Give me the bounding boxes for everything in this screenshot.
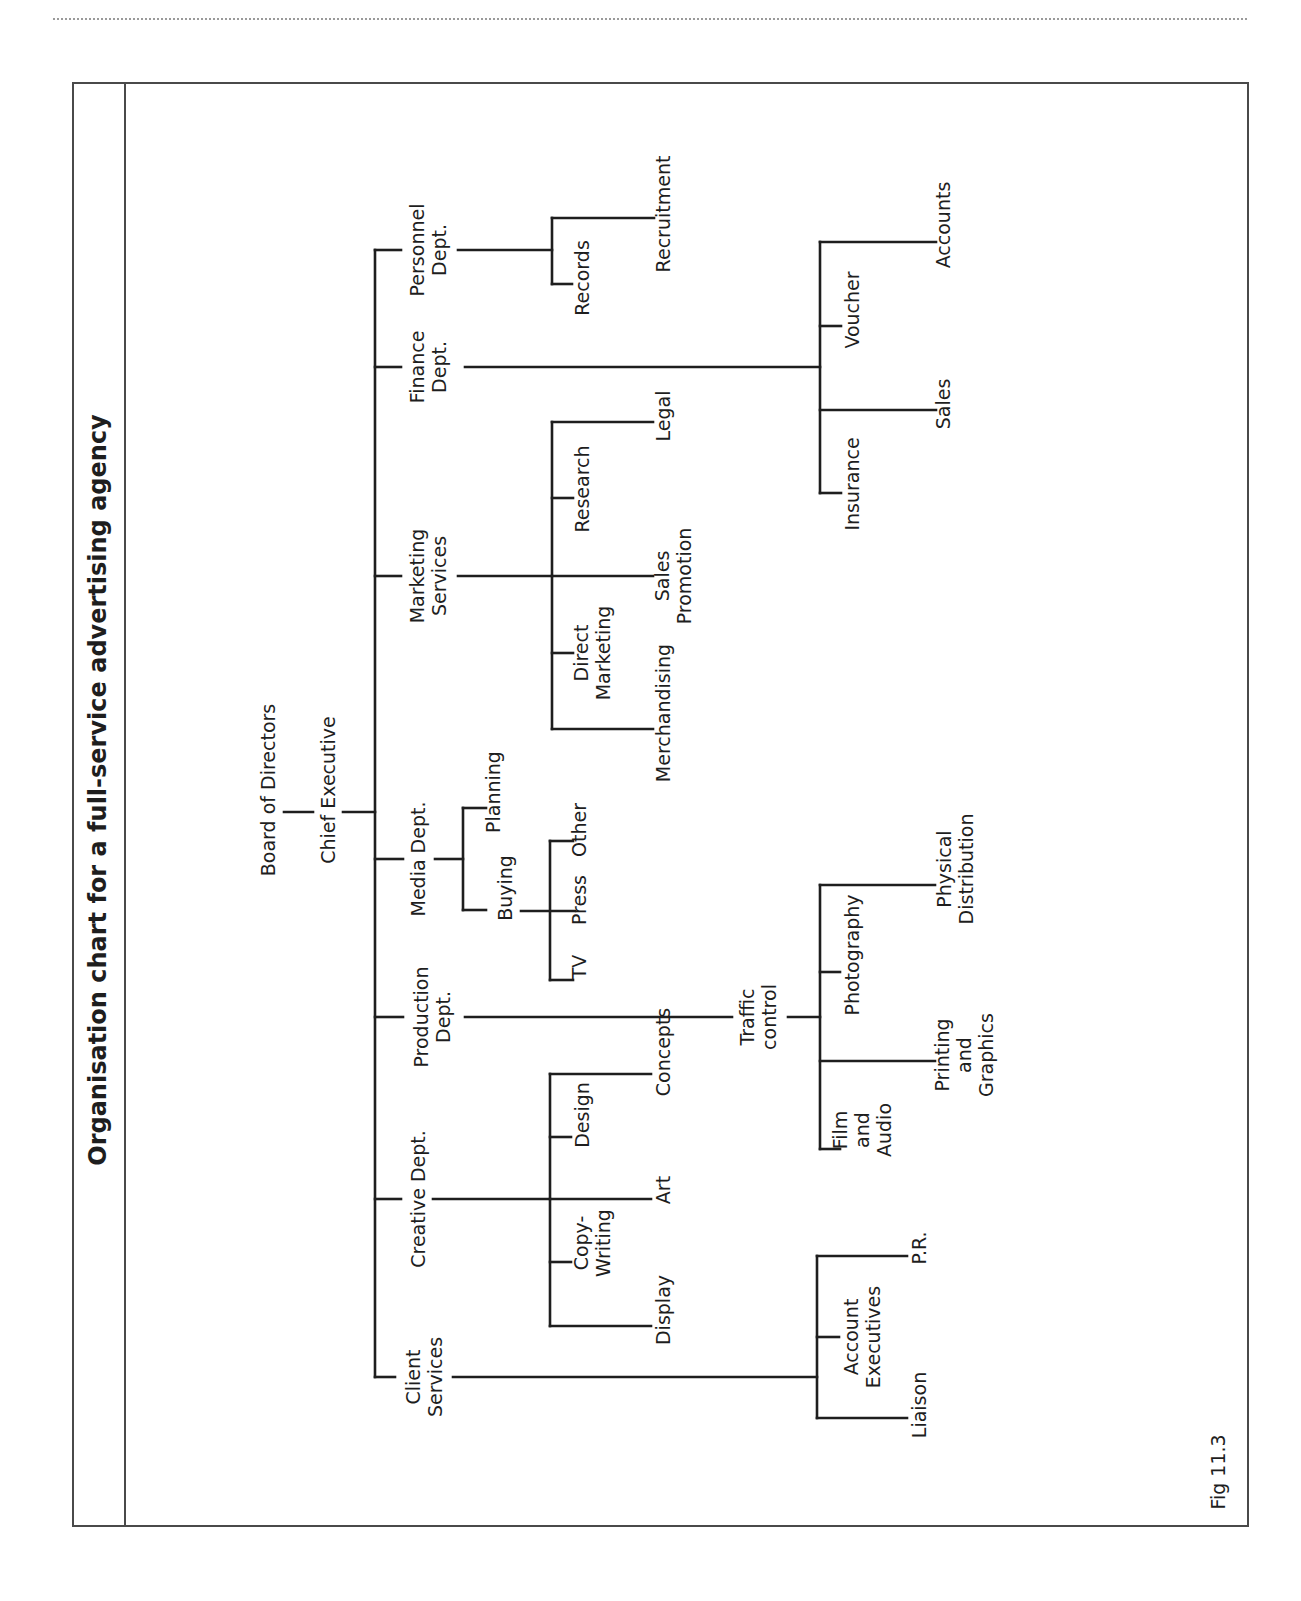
node-research: Research [571, 445, 593, 532]
node-labels: Board of Directors Chief Executive Perso… [257, 156, 997, 1439]
node-client: ClientServices [402, 1337, 446, 1417]
node-accounts: Accounts [932, 182, 954, 269]
org-chart: Organisation chart for a full-service ad… [0, 0, 1301, 1601]
node-merchandising: Merchandising [652, 644, 674, 782]
node-traffic: Trafficcontrol [736, 984, 780, 1050]
node-recruitment: Recruitment [652, 156, 674, 273]
node-voucher: Voucher [841, 271, 863, 348]
node-printing: PrintingandGraphics [931, 1013, 997, 1097]
node-creative: Creative Dept. [407, 1130, 429, 1268]
node-film: FilmandAudio [829, 1103, 895, 1157]
node-display: Display [652, 1275, 674, 1345]
node-design: Design [571, 1082, 593, 1148]
node-insurance: Insurance [841, 437, 863, 530]
node-production: ProductionDept. [410, 966, 454, 1067]
figure-title: Organisation chart for a full-service ad… [84, 414, 112, 1166]
node-liaison: Liaison [908, 1372, 930, 1438]
node-sales: Sales [932, 379, 954, 430]
node-copywriting: Copy-Writing [570, 1209, 614, 1277]
node-direct-marketing: DirectMarketing [570, 606, 614, 701]
node-concepts: Concepts [652, 1008, 674, 1096]
node-chief: Chief Executive [317, 716, 339, 864]
node-other: Other [568, 803, 590, 857]
node-records: Records [571, 240, 593, 316]
node-account-executives: AccountExecutives [840, 1286, 884, 1388]
node-board: Board of Directors [257, 704, 279, 876]
node-sales-promotion: SalesPromotion [651, 528, 695, 625]
figure-caption: Fig 11.3 [1207, 1434, 1229, 1509]
node-marketing: MarketingServices [406, 529, 450, 624]
node-personnel: PersonnelDept. [406, 204, 450, 297]
node-physical-distribution: PhysicalDistribution [933, 814, 977, 925]
node-pr: P.R. [908, 1231, 930, 1264]
node-planning: Planning [482, 751, 504, 833]
node-art: Art [652, 1176, 674, 1204]
node-media: Media Dept. [407, 802, 429, 917]
node-photography: Photography [841, 894, 863, 1015]
node-buying: Buying [494, 855, 516, 921]
node-legal: Legal [652, 391, 674, 442]
node-tv: TV [568, 955, 590, 981]
node-press: Press [568, 875, 590, 925]
node-finance: FinanceDept. [406, 331, 450, 404]
